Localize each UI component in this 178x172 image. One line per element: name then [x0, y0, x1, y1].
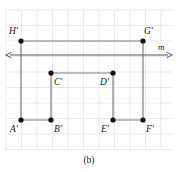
point-A-prime	[18, 117, 23, 122]
label-point-A-prime: A'	[10, 125, 18, 135]
label-point-D-prime: D'	[100, 78, 109, 88]
label-point-E-prime: E'	[101, 125, 109, 135]
point-F-prime	[140, 117, 145, 122]
point-E-prime	[110, 117, 115, 122]
line-m-label: m	[158, 43, 165, 52]
label-point-F-prime: F'	[146, 125, 154, 135]
point-B-prime	[48, 117, 53, 122]
point-H-prime	[18, 38, 23, 43]
label-point-C-prime: C'	[54, 78, 62, 88]
figure-panel-b: H'G'C'D'A'B'E'F' m (b)	[0, 0, 178, 172]
label-point-B-prime: B'	[54, 125, 62, 135]
segment-layer	[21, 41, 143, 120]
label-point-H-prime: H'	[9, 27, 18, 37]
figure-caption: (b)	[0, 156, 178, 166]
point-G-prime	[140, 38, 145, 43]
point-C-prime	[48, 70, 53, 75]
label-point-G-prime: G'	[144, 27, 153, 37]
point-D-prime	[110, 70, 115, 75]
